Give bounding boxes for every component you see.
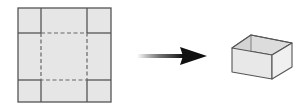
diagram-canvas — [0, 0, 308, 110]
arrow-right-icon — [137, 47, 207, 65]
box-net — [18, 8, 111, 102]
open-box — [232, 35, 292, 79]
net-sheet — [18, 8, 111, 102]
